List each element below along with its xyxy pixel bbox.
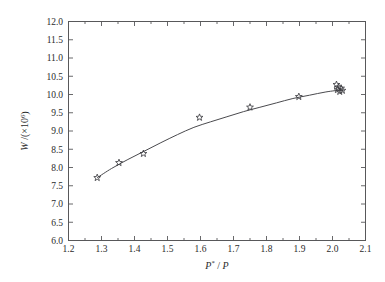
data-point-marker (116, 159, 123, 166)
x-tick-label: 1.3 (96, 244, 108, 254)
x-tick-label: 1.7 (228, 244, 240, 254)
data-point-marker (295, 93, 302, 100)
y-tick-label: 9.0 (51, 126, 63, 136)
y-tick-label: 7.5 (51, 181, 63, 191)
plot-frame (69, 22, 366, 241)
scatter-chart: 1.21.31.41.51.61.71.81.92.02.1 6.06.57.0… (0, 0, 385, 282)
x-tick-label: 2.0 (327, 244, 339, 254)
chart-page: 1.21.31.41.51.61.71.81.92.02.1 6.06.57.0… (0, 0, 385, 282)
y-tick-label: 7.0 (51, 199, 63, 209)
x-axis-title-text: P* / P (204, 259, 228, 270)
y-tick-label: 10.5 (46, 72, 63, 82)
y-tick-label: 11.0 (47, 53, 64, 63)
x-axis-ticks (69, 22, 366, 241)
y-tick-label: 6.5 (51, 218, 63, 228)
y-tick-label: 9.5 (51, 108, 63, 118)
y-tick-label: 12.0 (46, 17, 63, 27)
x-axis-title: P* / P (204, 259, 228, 270)
x-tick-label: 2.1 (360, 244, 372, 254)
fit-curve (97, 90, 342, 178)
x-tick-label: 1.6 (195, 244, 207, 254)
y-axis-tick-labels: 6.06.57.07.58.08.59.09.510.010.511.011.5… (46, 17, 63, 246)
fit-curve-path (97, 90, 342, 178)
y-axis-title-text: W /(×106) (19, 111, 31, 150)
y-axis-title: W /(×106) (19, 111, 31, 150)
y-tick-label: 11.5 (47, 35, 64, 45)
y-tick-label: 8.5 (51, 145, 63, 155)
y-axis-ticks (69, 22, 366, 241)
x-tick-label: 1.8 (261, 244, 273, 254)
x-axis-tick-labels: 1.21.31.41.51.61.71.81.92.02.1 (63, 244, 372, 254)
x-tick-label: 1.2 (63, 244, 75, 254)
y-tick-label: 6.0 (51, 236, 63, 246)
x-tick-label: 1.9 (294, 244, 306, 254)
y-tick-label: 10.0 (46, 90, 63, 100)
x-tick-label: 1.4 (129, 244, 141, 254)
data-point-marker (196, 114, 203, 121)
data-point-marker (140, 150, 147, 157)
x-tick-label: 1.5 (162, 244, 174, 254)
y-tick-label: 8.0 (51, 163, 63, 173)
